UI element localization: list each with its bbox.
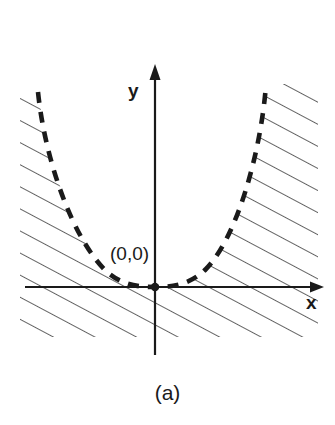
parabola-plot <box>0 0 335 425</box>
hatched-region <box>0 0 335 425</box>
y-axis-arrow-icon <box>150 64 161 80</box>
filled-dot-icon <box>151 283 159 291</box>
x-axis-label: x <box>306 292 317 314</box>
origin-point <box>151 283 159 291</box>
y-axis-label: y <box>128 80 139 102</box>
origin-coordinate-label: (0,0) <box>110 243 149 265</box>
figure-container: y x (0,0) (a) <box>0 0 335 425</box>
figure-caption: (a) <box>0 381 335 405</box>
